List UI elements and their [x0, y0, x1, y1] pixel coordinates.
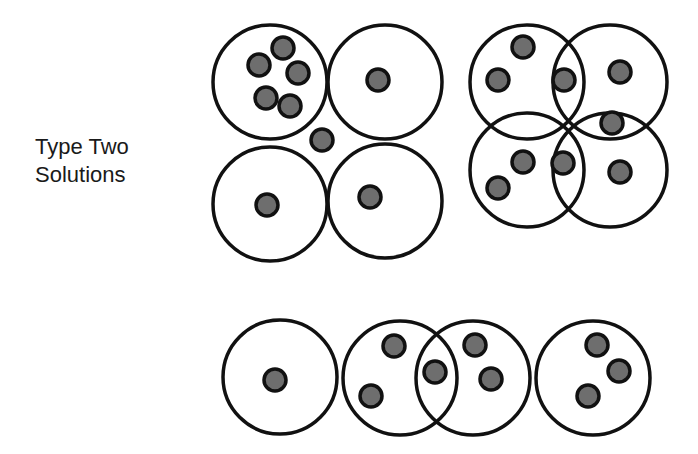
- circles-diagram: [0, 0, 698, 454]
- point-dot: [553, 69, 575, 91]
- point-dot: [577, 385, 599, 407]
- point-dot: [256, 194, 278, 216]
- point-dot: [586, 334, 608, 356]
- point-dot: [552, 152, 574, 174]
- point-dot: [464, 334, 486, 356]
- row-group: [223, 320, 650, 435]
- point-dot: [311, 129, 333, 151]
- point-dot: [608, 360, 630, 382]
- point-dot: [480, 368, 502, 390]
- point-dot: [287, 62, 309, 84]
- point-dot: [424, 361, 446, 383]
- point-dot: [487, 69, 509, 91]
- point-dot: [360, 385, 382, 407]
- point-dot: [255, 87, 277, 109]
- point-dot: [359, 186, 381, 208]
- point-dot: [609, 61, 631, 83]
- point-dot: [279, 95, 301, 117]
- point-dot: [383, 335, 405, 357]
- square-overlapping-group: [470, 25, 667, 227]
- set-circle: [328, 144, 442, 258]
- point-dot: [512, 151, 534, 173]
- point-dot: [272, 37, 294, 59]
- point-dot: [609, 161, 631, 183]
- square-tangent-group: [213, 25, 442, 261]
- point-dot: [248, 54, 270, 76]
- point-dot: [264, 369, 286, 391]
- point-dot: [601, 112, 623, 134]
- point-dot: [512, 36, 534, 58]
- point-dot: [487, 177, 509, 199]
- point-dot: [367, 69, 389, 91]
- set-circle: [213, 25, 327, 139]
